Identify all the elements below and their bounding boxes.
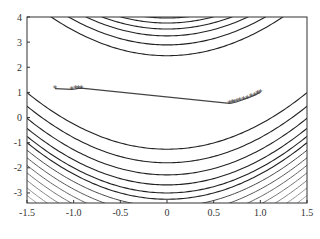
contour-line [27, 0, 307, 56]
y-tick-label: 4 [17, 12, 22, 23]
y-axis-ticks: -3-2-101234 [14, 12, 30, 199]
x-tick-label: 0 [165, 207, 170, 218]
contour-line [27, 128, 307, 185]
star-marker-icon: * [258, 88, 263, 98]
y-tick-label: 3 [17, 37, 22, 48]
y-tick-label: -3 [14, 187, 22, 198]
y-tick-label: 1 [17, 87, 22, 98]
contour-line [27, 0, 307, 9]
y-tick-label: -2 [14, 162, 22, 173]
contour-line [27, 93, 307, 150]
star-marker-icon: * [79, 84, 84, 94]
x-tick-label: 0.5 [207, 207, 220, 218]
x-tick-label: -0.5 [112, 207, 128, 218]
contour-line [27, 0, 307, 23]
x-tick-label: 1.0 [254, 207, 267, 218]
contour-line [27, 158, 307, 215]
contour-line [27, 0, 307, 29]
y-tick-label: 2 [17, 62, 22, 73]
contour-line [27, 0, 307, 45]
contour-line [27, 118, 307, 175]
y-tick-label: 0 [17, 112, 22, 123]
x-tick-label: -1.5 [19, 207, 35, 218]
contour-line [27, 0, 307, 13]
contour-line [27, 143, 307, 200]
optimization-path: **************** [53, 84, 263, 109]
x-tick-label: 1.5 [301, 207, 314, 218]
contour-line [27, 150, 307, 207]
x-tick-label: -1.0 [66, 207, 82, 218]
rosenbrock-contour-chart: **************** -1.5-1.0-0.500.51.01.5 … [0, 0, 320, 239]
y-tick-label: -1 [14, 137, 22, 148]
contour-line [27, 106, 307, 163]
star-marker-icon: * [53, 84, 58, 94]
contour-line [27, 0, 307, 18]
